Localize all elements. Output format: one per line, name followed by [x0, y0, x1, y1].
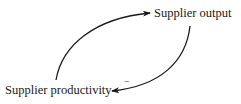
causal-loop-diagram: Supplier output Supplier productivity −	[0, 0, 241, 104]
polarity-sign-negative: −	[124, 77, 130, 87]
node-supplier-output: Supplier output	[154, 7, 231, 20]
node-supplier-productivity: Supplier productivity	[5, 84, 112, 97]
edge-productivity-to-output-arrow	[56, 13, 150, 80]
